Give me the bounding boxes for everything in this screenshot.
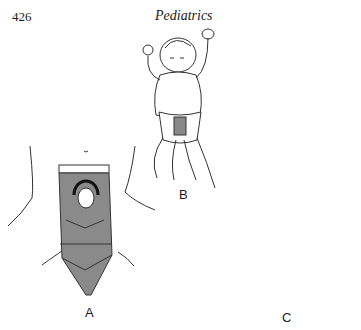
figure-illustration	[0, 0, 361, 330]
panel-a-drawing	[8, 146, 155, 295]
panel-label-c: C	[282, 310, 291, 325]
panel-label-a: A	[85, 305, 94, 320]
infant-drawing	[143, 29, 215, 188]
panel-label-b: B	[179, 187, 188, 202]
